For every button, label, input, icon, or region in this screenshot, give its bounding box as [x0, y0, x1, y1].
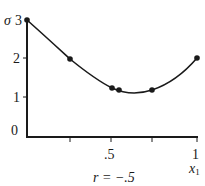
y-axis-label: σ	[4, 13, 12, 28]
y-tick-label-1: 1	[13, 90, 20, 105]
data-point	[194, 55, 200, 61]
y-tick-label-2: 2	[13, 51, 20, 66]
x-tick-label-05: .5	[104, 147, 115, 162]
y-tick-label-0: 0	[11, 123, 18, 138]
data-point	[67, 56, 73, 62]
data-point	[149, 87, 155, 93]
correlation-annotation: r = −.5	[93, 170, 135, 185]
chart: σ 3 2 1 0 .5 1 x1 r = −.5	[0, 0, 205, 186]
data-point	[109, 85, 115, 91]
sigma-curve	[27, 20, 197, 93]
data-point	[116, 87, 122, 93]
data-point	[24, 17, 30, 23]
y-tick-label-3: 3	[15, 13, 22, 28]
x-axis-label: x1	[188, 161, 200, 177]
x-tick-label-1: 1	[192, 147, 199, 162]
